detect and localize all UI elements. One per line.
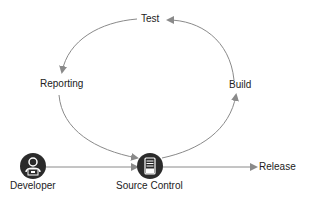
edge-reporting-to-source-control	[59, 95, 137, 158]
node-label-reporting: Reporting	[40, 78, 83, 90]
edge-test-to-reporting	[62, 19, 137, 72]
node-label-test: Test	[141, 13, 159, 25]
edge-build-to-test	[168, 20, 234, 80]
node-label-build: Build	[229, 79, 251, 91]
node-label-source-control: Source Control	[116, 180, 183, 192]
node-label-release: Release	[259, 161, 296, 173]
node-label-developer: Developer	[10, 180, 56, 192]
edge-source-control-to-build	[162, 95, 236, 158]
server-icon	[137, 153, 163, 179]
developer-laptop-icon	[20, 153, 46, 179]
